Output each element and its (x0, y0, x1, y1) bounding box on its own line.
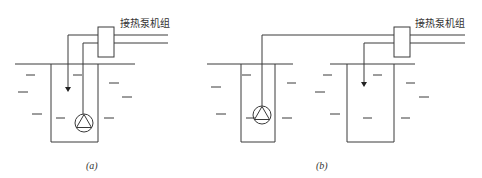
supply-pipe (83, 43, 98, 114)
caption-a: (a) (86, 160, 98, 171)
arrow-down-icon (65, 87, 71, 92)
return-pipe (364, 43, 394, 83)
heat-pump-unit-label-a: 接热泵机组 (120, 15, 170, 30)
heat-pump-unit-box (98, 27, 114, 57)
recharge-well (347, 64, 394, 142)
arrow-down-icon (361, 82, 367, 87)
diagram-canvas (0, 0, 482, 178)
heat-pump-unit-box (394, 27, 410, 57)
pump-icon (253, 106, 271, 124)
pump-icon (75, 114, 93, 132)
caption-b: (b) (316, 160, 328, 171)
panel-b (207, 27, 465, 142)
well (51, 64, 98, 142)
heat-pump-unit-label-b: 接热泵机组 (415, 15, 465, 30)
water-dashes (18, 75, 132, 118)
pumping-well (241, 64, 275, 142)
water-dashes (211, 75, 429, 118)
supply-pipe (262, 35, 394, 106)
panel-a (15, 27, 168, 142)
